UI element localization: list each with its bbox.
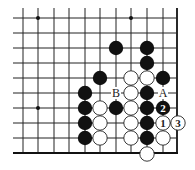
black-stone (78, 116, 92, 130)
black-stone (156, 71, 170, 85)
white-stone (93, 101, 107, 115)
black-stone (93, 71, 107, 85)
star-point (36, 16, 40, 20)
star-point (36, 106, 40, 110)
white-stone (124, 131, 138, 145)
black-stone (78, 101, 92, 115)
black-stone (140, 116, 154, 130)
white-stone: 1 (156, 116, 170, 130)
black-stone (109, 101, 123, 115)
move-number: 1 (160, 117, 166, 129)
white-stone (93, 131, 107, 145)
white-stone (140, 147, 154, 161)
black-stone (140, 131, 154, 145)
white-stone (93, 116, 107, 130)
move-number: 2 (160, 102, 166, 114)
black-stone (140, 41, 154, 55)
black-stone (140, 86, 154, 100)
point-label-a: A (159, 86, 168, 100)
white-stone (140, 71, 154, 85)
white-stone (124, 116, 138, 130)
white-stone (124, 71, 138, 85)
black-stone (109, 41, 123, 55)
point-label-b: B (112, 86, 120, 100)
white-stone (156, 131, 170, 145)
black-stone (140, 56, 154, 70)
go-board-diagram: 213 BA (0, 0, 195, 170)
black-stone (140, 101, 154, 115)
white-stone: 3 (171, 116, 185, 130)
black-stone: 2 (156, 101, 170, 115)
move-number: 3 (175, 117, 181, 129)
black-stone (78, 131, 92, 145)
star-point (129, 16, 133, 20)
white-stone (124, 101, 138, 115)
white-stone (124, 86, 138, 100)
black-stone (78, 86, 92, 100)
